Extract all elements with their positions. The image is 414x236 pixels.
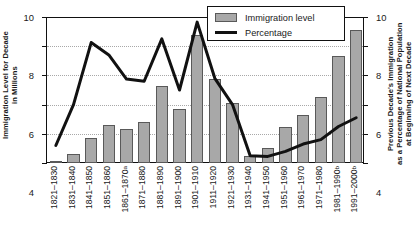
percentage-line <box>56 22 356 156</box>
x-axis-label: 1971–1980 <box>315 166 324 209</box>
x-axis-label: 1921–1930 <box>227 166 236 209</box>
right-tick-label-4: 4 <box>376 188 396 197</box>
left-tick-label-4: 4 <box>14 188 34 197</box>
x-axis-label: 1941–1950 <box>262 166 271 209</box>
chart-legend: Immigration level Percentage <box>207 6 345 41</box>
right-tick-label-8: 8 <box>376 71 396 80</box>
immigration-chart: Immigration Level for Decade in Millions… <box>0 0 414 236</box>
right-tick-label-6: 6 <box>376 130 396 139</box>
x-axis-label: 1951–1960 <box>280 166 289 209</box>
x-axis-label: 1831–1840 <box>68 166 77 209</box>
x-label-superscript: b <box>350 166 357 169</box>
x-axis-label: 1861–1870a <box>121 166 130 212</box>
left-tick-label-6: 6 <box>14 130 34 139</box>
x-label-superscript: b <box>333 166 340 169</box>
x-axis-label: 1901–1910 <box>191 166 200 209</box>
left-tick-label-10: 10 <box>14 13 34 22</box>
x-axis-label: 1931–1940 <box>244 166 253 209</box>
legend-bar-label: Immigration level <box>245 13 314 23</box>
x-axis-label: 1961–1970 <box>297 166 306 209</box>
legend-bar-swatch <box>215 13 237 22</box>
right-tick-0: 0 <box>363 163 368 164</box>
x-axis-label: 1871–1880 <box>138 166 147 209</box>
legend-line-label: Percentage <box>245 28 292 38</box>
x-axis-label: 1911–1920 <box>209 166 218 208</box>
legend-item-percentage: Percentage <box>215 25 344 40</box>
x-axis-label: 1821–1830 <box>50 166 59 209</box>
x-axis-label: 1891–1900 <box>174 166 183 209</box>
right-axis-title: Previous Decade's Immigration as a Perce… <box>386 6 414 182</box>
x-axis-label: 1981–1990b <box>333 166 342 212</box>
x-axis-label: 1991–2000b <box>350 166 359 212</box>
x-axis-labels: 1821–18301831–18401841–18501851–18601861… <box>46 166 364 236</box>
x-axis-label: 1881–1890 <box>156 166 165 209</box>
legend-item-immigration-level: Immigration level <box>215 10 344 25</box>
legend-line-swatch <box>215 31 237 34</box>
x-axis-label: 1851–1860 <box>103 166 112 209</box>
x-axis-label: 1841–1850 <box>85 166 94 209</box>
x-label-superscript: a <box>121 166 128 169</box>
right-tick-label-10: 10 <box>376 13 396 22</box>
left-tick-label-8: 8 <box>14 71 34 80</box>
left-tick-0: 0 <box>42 163 47 164</box>
